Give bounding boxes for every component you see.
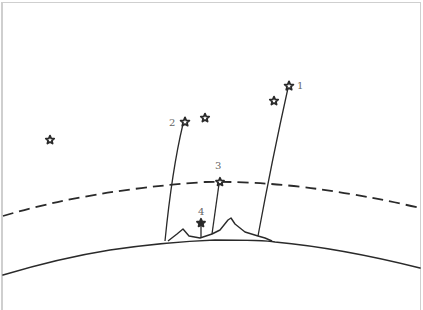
label-4: 4 <box>198 206 204 217</box>
label-3: 3 <box>215 160 221 171</box>
star-1-companion-icon <box>270 97 278 105</box>
star-2-companion-icon <box>201 114 209 122</box>
atmosphere-boundary <box>3 182 420 216</box>
sight-line-1 <box>258 88 288 236</box>
earth-surface <box>3 240 420 275</box>
star-1-icon <box>285 81 294 89</box>
star-isolated-left-icon <box>46 136 54 144</box>
label-1: 1 <box>297 80 303 91</box>
diagram-canvas: 1 2 3 4 <box>0 0 423 310</box>
label-2: 2 <box>169 117 175 128</box>
star-3-icon <box>216 178 224 186</box>
sight-line-2 <box>165 124 183 241</box>
mountain-range <box>168 218 272 241</box>
star-4-icon <box>197 219 205 227</box>
sight-line-3 <box>212 184 219 234</box>
star-2-icon <box>181 117 190 125</box>
